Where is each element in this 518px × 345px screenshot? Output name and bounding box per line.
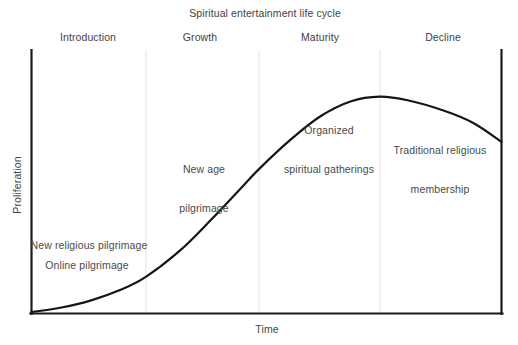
annotation-traditional-religious-membership-line2: membership (394, 183, 487, 196)
annotation-new-religious-pilgrimage: New religious pilgrimage (31, 239, 148, 252)
chart-container: Spiritual entertainment life cycle Intro… (0, 0, 518, 345)
stage-label-introduction: Introduction (60, 31, 116, 44)
annotation-online-pilgrimage: Online pilgrimage (45, 259, 128, 272)
stage-label-growth: Growth (183, 31, 217, 44)
x-axis-label: Time (255, 323, 278, 336)
y-axis-label: Proliferation (11, 156, 24, 213)
annotation-new-age-pilgrimage: New age pilgrimage (179, 137, 228, 241)
chart-title: Spiritual entertainment life cycle (189, 7, 341, 20)
stage-label-decline: Decline (425, 31, 461, 44)
annotation-traditional-religious-membership: Traditional religious membership (394, 118, 487, 222)
annotation-new-age-pilgrimage-line1: New age (179, 163, 228, 176)
stage-label-maturity: Maturity (301, 31, 339, 44)
annotation-organized-spiritual-gatherings-line2: spiritual gatherings (284, 163, 374, 176)
annotation-new-age-pilgrimage-line2: pilgrimage (179, 202, 228, 215)
annotation-organized-spiritual-gatherings-line1: Organized (284, 124, 374, 137)
annotation-organized-spiritual-gatherings: Organized spiritual gatherings (284, 98, 374, 202)
annotation-traditional-religious-membership-line1: Traditional religious (394, 144, 487, 157)
